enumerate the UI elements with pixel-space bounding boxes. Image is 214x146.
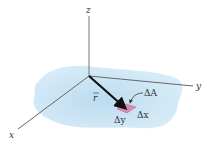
delta-a-label: ΔA [144,88,157,98]
area-element-diagram: z y x r ΔA Δx Δy [0,0,214,146]
x-axis-label: x [9,130,14,140]
delta-y-label: Δy [114,115,126,125]
delta-x-label: Δx [137,110,149,120]
z-axis-label: z [85,5,91,15]
vector-r-label: r [93,93,98,103]
y-axis-label: y [195,81,202,91]
region-shape [33,66,182,128]
